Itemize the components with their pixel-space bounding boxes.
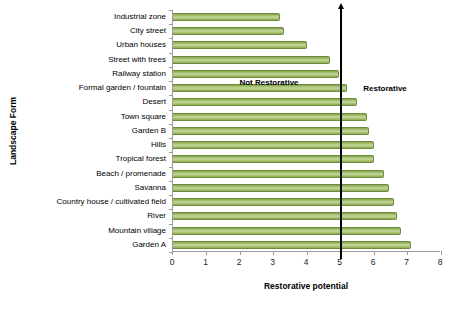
- x-axis-tick: [240, 251, 241, 255]
- x-tick-label: 3: [263, 257, 283, 267]
- y-axis-tick: [169, 81, 173, 82]
- x-tick-label: 8: [430, 257, 450, 267]
- bar: [173, 212, 397, 220]
- x-tick-label: 2: [229, 257, 249, 267]
- x-axis-tick: [172, 251, 173, 255]
- category-label: River: [0, 209, 166, 223]
- category-label: Garden B: [0, 124, 166, 138]
- annotation-restorative: Restorative: [340, 84, 430, 93]
- x-tick-label: 7: [397, 257, 417, 267]
- bar: [173, 241, 411, 249]
- category-label: Country house / cultivated field: [0, 195, 166, 209]
- reference-line: [340, 8, 342, 259]
- bar-row: [173, 38, 440, 52]
- category-label: Mountain village: [0, 224, 166, 238]
- bar-row: [173, 195, 440, 209]
- y-axis-tick: [169, 95, 173, 96]
- y-axis-tick: [169, 10, 173, 11]
- category-label: Street with trees: [0, 53, 166, 67]
- x-axis-title: Restorative potential: [172, 281, 440, 291]
- x-tick-label: 4: [296, 257, 316, 267]
- bar: [173, 198, 394, 206]
- y-axis-tick: [169, 195, 173, 196]
- bar-row: [173, 224, 440, 238]
- restorative-potential-chart: Landscape Form Industrial zoneCity stree…: [0, 0, 456, 309]
- bar: [173, 184, 389, 192]
- category-label: Savanna: [0, 181, 166, 195]
- bar-row: [173, 238, 440, 252]
- annotation-not-restorative: Not Restorative: [219, 78, 319, 87]
- x-axis-tick: [307, 251, 308, 255]
- bar-row: [173, 95, 440, 109]
- x-axis-tick: [273, 251, 274, 255]
- bar: [173, 113, 367, 121]
- bar: [173, 27, 284, 35]
- category-label: Urban houses: [0, 38, 166, 52]
- y-axis-tick: [169, 110, 173, 111]
- bar: [173, 56, 330, 64]
- arrow-up-icon: [338, 3, 344, 9]
- bar: [173, 227, 401, 235]
- category-label: Desert: [0, 95, 166, 109]
- y-axis-tick: [169, 53, 173, 54]
- y-axis-tick: [169, 124, 173, 125]
- category-label: Town square: [0, 110, 166, 124]
- bar: [173, 41, 307, 49]
- x-axis-tick: [374, 251, 375, 255]
- bar-row: [173, 209, 440, 223]
- x-axis-tick: [407, 251, 408, 255]
- bar-row: [173, 53, 440, 67]
- y-axis-tick: [169, 138, 173, 139]
- bar-row: [173, 10, 440, 24]
- bar-row: [173, 167, 440, 181]
- bar-row: [173, 124, 440, 138]
- bar: [173, 98, 357, 106]
- category-label: Industrial zone: [0, 10, 166, 24]
- bar: [173, 70, 339, 78]
- y-axis-tick: [169, 38, 173, 39]
- x-axis-tick: [441, 251, 442, 255]
- y-axis-tick: [169, 238, 173, 239]
- bar-row: [173, 152, 440, 166]
- x-axis-tick-labels: 012345678: [172, 257, 440, 269]
- category-label: Railway station: [0, 67, 166, 81]
- x-axis-tick: [206, 251, 207, 255]
- bar: [173, 13, 280, 21]
- y-axis-tick: [169, 209, 173, 210]
- bar: [173, 170, 384, 178]
- y-axis-tick: [169, 167, 173, 168]
- category-label: Hills: [0, 138, 166, 152]
- bar: [173, 155, 374, 163]
- x-tick-label: 1: [196, 257, 216, 267]
- y-axis-tick: [169, 67, 173, 68]
- x-tick-label: 0: [162, 257, 182, 267]
- category-label: Beach / promenade: [0, 167, 166, 181]
- bar-row: [173, 24, 440, 38]
- category-label-column: Industrial zoneCity streetUrban housesSt…: [0, 10, 166, 252]
- bar-row: [173, 110, 440, 124]
- y-axis-tick: [169, 224, 173, 225]
- bar: [173, 141, 374, 149]
- y-axis-tick: [169, 152, 173, 153]
- category-label: Tropical forest: [0, 152, 166, 166]
- category-label: Garden A: [0, 238, 166, 252]
- y-axis-tick: [169, 181, 173, 182]
- y-axis-tick: [169, 24, 173, 25]
- bar-series: [173, 10, 440, 252]
- bar-row: [173, 181, 440, 195]
- category-label: City street: [0, 24, 166, 38]
- x-tick-label: 6: [363, 257, 383, 267]
- plot-area: Not Restorative Restorative: [172, 10, 440, 252]
- bar-row: [173, 138, 440, 152]
- category-label: Formal garden / fountain: [0, 81, 166, 95]
